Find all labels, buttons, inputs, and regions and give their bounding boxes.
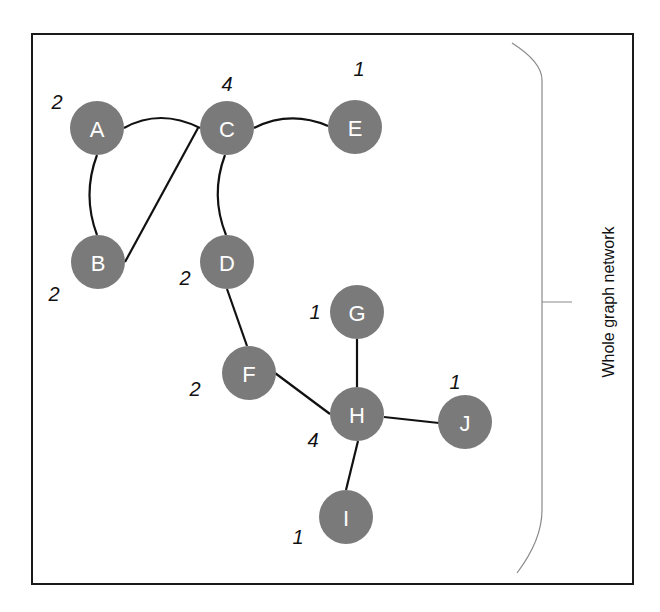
node-label: D [219,251,235,276]
node-d: D2 [178,235,254,289]
edges-group [90,118,440,490]
node-label: B [91,251,106,276]
node-j: J1 [438,371,492,449]
nodes-group: A2B2C4D2E1F2G1H4I1J1 [47,58,492,548]
node-h: H4 [307,387,384,451]
node-label: F [242,362,255,387]
node-a: A2 [50,91,124,155]
edge-c-e [254,118,328,128]
edge-h-j [384,417,439,423]
degree-label: 2 [47,283,59,305]
edge-c-d [218,155,226,235]
edge-a-b [90,155,98,235]
degree-label: 2 [178,267,190,289]
whole-graph-label: Whole graph network [600,225,617,377]
node-c: C4 [200,73,254,155]
degree-label: 2 [50,91,62,113]
node-e: E1 [328,58,382,154]
node-label: C [219,117,235,142]
degree-label: 1 [353,58,364,80]
edge-b-c [125,128,198,262]
node-i: I1 [292,490,373,548]
node-g: G1 [309,285,384,339]
node-f: F2 [188,346,276,400]
curly-brace [512,43,572,573]
degree-label: 4 [307,429,318,451]
node-label: I [343,506,349,531]
edge-a-c [124,118,200,128]
edge-d-f [227,289,247,346]
node-label: G [348,301,365,326]
edge-h-i [346,441,358,490]
graph-network: A2B2C4D2E1F2G1H4I1J1 Whole graph network [0,0,660,612]
degree-label: 1 [309,301,320,323]
node-label: H [349,403,365,428]
degree-label: 4 [221,73,232,95]
degree-label: 1 [449,371,460,393]
node-label: E [348,116,363,141]
edge-f-h [275,373,330,414]
node-label: A [90,117,105,142]
node-b: B2 [47,235,125,305]
node-label: J [460,411,471,436]
degree-label: 1 [292,526,303,548]
degree-label: 2 [188,378,200,400]
